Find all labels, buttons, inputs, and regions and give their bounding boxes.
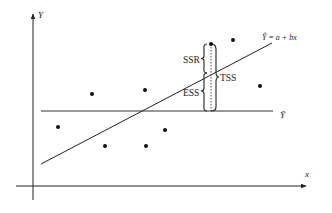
data-point <box>90 92 94 96</box>
mean-line-label: Ȳ <box>280 110 286 120</box>
y-axis-label: Y <box>38 10 44 20</box>
tss-label: TSS <box>220 73 236 83</box>
data-point <box>209 42 213 46</box>
ssr-label: SSR <box>183 55 201 65</box>
regression-diagram: Y x Ȳ Ŷ = a + bx SSR ESS TSS <box>0 0 332 213</box>
data-point <box>143 88 147 92</box>
data-point <box>103 144 107 148</box>
data-points <box>56 38 262 148</box>
ssr-brace <box>201 44 207 73</box>
ess-label: ESS <box>183 88 199 98</box>
data-point <box>163 128 167 132</box>
data-point <box>56 125 60 129</box>
data-point <box>231 38 235 42</box>
tss-brace <box>211 44 219 111</box>
regression-line-label: Ŷ = a + bx <box>262 32 297 42</box>
ess-brace <box>201 73 207 111</box>
data-point <box>144 144 148 148</box>
data-point <box>258 84 262 88</box>
regression-line <box>41 43 272 164</box>
x-axis-label: x <box>304 169 309 179</box>
